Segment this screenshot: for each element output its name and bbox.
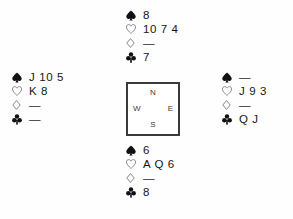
heart-icon: [12, 85, 24, 98]
club-icon: [126, 51, 138, 64]
club-icon: [12, 113, 24, 126]
east-heart-row: J 9 3: [222, 84, 267, 98]
east-heart-cards: J 9 3: [234, 85, 267, 98]
east-club-row: Q J: [222, 112, 267, 126]
south-spade-row: 6: [126, 143, 175, 157]
north-diamond-row: —: [126, 36, 179, 50]
spade-icon: [12, 71, 24, 84]
west-heart-cards: K 8: [24, 85, 48, 98]
hand-east: — J 9 3 —: [222, 70, 267, 126]
heart-icon: [126, 23, 138, 36]
north-club-row: 7: [126, 50, 179, 64]
west-club-row: —: [12, 112, 64, 126]
east-spade-cards: —: [234, 71, 251, 84]
spade-icon: [126, 9, 138, 22]
compass-label-west: W: [133, 105, 141, 113]
diamond-icon: [126, 172, 138, 185]
west-spade-row: J 10 5: [12, 70, 64, 84]
south-diamond-row: —: [126, 171, 175, 185]
north-club-cards: 7: [138, 51, 150, 64]
hand-north: 8 10 7 4 —: [126, 8, 179, 64]
east-diamond-row: —: [222, 98, 267, 112]
north-spade-cards: 8: [138, 9, 150, 22]
compass-box: N W E S: [126, 82, 180, 136]
spade-icon: [222, 71, 234, 84]
south-diamond-cards: —: [138, 172, 155, 185]
club-icon: [126, 186, 138, 199]
diamond-icon: [126, 37, 138, 50]
west-spade-cards: J 10 5: [24, 71, 64, 84]
north-spade-row: 8: [126, 8, 179, 22]
north-heart-cards: 10 7 4: [138, 23, 179, 36]
south-spade-cards: 6: [138, 144, 150, 157]
south-heart-cards: A Q 6: [138, 158, 175, 171]
north-diamond-cards: —: [138, 37, 155, 50]
west-diamond-cards: —: [24, 99, 41, 112]
compass-label-east: E: [168, 105, 173, 113]
diamond-icon: [222, 99, 234, 112]
heart-icon: [126, 158, 138, 171]
hand-south: 6 A Q 6 —: [126, 143, 175, 199]
compass-label-north: N: [150, 89, 156, 97]
east-diamond-cards: —: [234, 99, 251, 112]
west-club-cards: —: [24, 113, 41, 126]
north-heart-row: 10 7 4: [126, 22, 179, 36]
compass-label-south: S: [150, 121, 155, 129]
south-heart-row: A Q 6: [126, 157, 175, 171]
east-club-cards: Q J: [234, 113, 259, 126]
west-diamond-row: —: [12, 98, 64, 112]
spade-icon: [126, 144, 138, 157]
heart-icon: [222, 85, 234, 98]
club-icon: [222, 113, 234, 126]
hand-west: J 10 5 K 8 —: [12, 70, 64, 126]
west-heart-row: K 8: [12, 84, 64, 98]
south-club-cards: 8: [138, 186, 150, 199]
diamond-icon: [12, 99, 24, 112]
east-spade-row: —: [222, 70, 267, 84]
bridge-deal-diagram: 8 10 7 4 —: [0, 0, 293, 219]
south-club-row: 8: [126, 185, 175, 199]
